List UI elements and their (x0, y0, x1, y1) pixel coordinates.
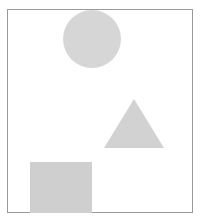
triangle-shape (104, 99, 164, 148)
square-shape (30, 162, 92, 213)
circle-shape (63, 10, 121, 68)
image-canvas (0, 0, 201, 223)
image-border (7, 9, 193, 213)
